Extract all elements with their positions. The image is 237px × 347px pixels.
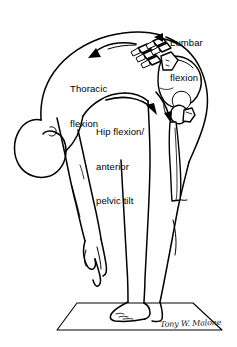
head-outline [15, 119, 67, 177]
lumbar-flexion-label: Lumbar flexion [170, 14, 203, 106]
thoracic-spine-line [108, 45, 136, 49]
right-leg-front-edge [144, 101, 150, 303]
lumbar-flexion-label-line1: Lumbar [170, 37, 203, 49]
calf-line [173, 220, 176, 255]
hip-flexion-label-line2: anterior [96, 161, 144, 173]
anatomical-illustration: Lumbar flexion Thoracic flexion Hip flex… [0, 0, 237, 347]
hip-flexion-label: Hip flexion/ anterior pelvic tilt [96, 103, 144, 230]
spinous-process-1 [131, 48, 140, 56]
hip-flexion-label-line1: Hip flexion/ [96, 126, 144, 138]
hip-arrow-head [146, 103, 157, 115]
finger-middle [101, 239, 106, 276]
spinous-process-3 [141, 60, 150, 68]
toe-1 [116, 313, 124, 314]
spinous-process-5 [151, 47, 160, 55]
far-foot-outline [152, 302, 162, 321]
spinous-process-4 [146, 41, 155, 49]
elbow-crease [80, 165, 84, 179]
lumbar-flexion-label-line2: flexion [170, 72, 203, 84]
femur-arrow-head [164, 111, 172, 123]
toe-2 [119, 316, 128, 317]
finger-index [93, 259, 100, 286]
thoracic-flexion-label-line1: Thoracic [70, 83, 107, 95]
hip-flexion-label-line3: pelvic tilt [96, 195, 144, 207]
greater-trochanter [183, 108, 195, 122]
spinous-process-2 [136, 54, 145, 62]
forearm-muscle-line [72, 186, 80, 217]
near-foot-top [144, 303, 150, 319]
